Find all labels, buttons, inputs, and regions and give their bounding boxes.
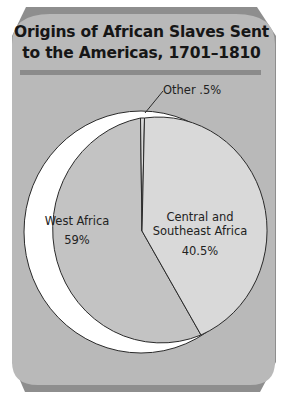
- chart-title: Origins of African Slaves Sent to the Am…: [0, 22, 283, 64]
- label-central-southeast-africa: Central and Southeast Africa 40.5%: [150, 210, 250, 258]
- label-west-africa-pct: 59%: [42, 233, 112, 247]
- chart-title-line-1: Origins of African Slaves Sent: [0, 22, 283, 43]
- label-central-line-2: Southeast Africa: [150, 224, 250, 238]
- label-central-pct: 40.5%: [150, 244, 250, 258]
- label-west-africa: West Africa 59%: [42, 214, 112, 247]
- chart-card: Origins of African Slaves Sent to the Am…: [0, 0, 283, 397]
- label-other: Other .5%: [163, 83, 221, 97]
- label-central-line-1: Central and: [150, 210, 250, 224]
- title-divider: [20, 70, 261, 75]
- chart-title-line-2: to the Americas, 1701–1810: [0, 43, 283, 64]
- label-west-africa-name: West Africa: [42, 214, 112, 228]
